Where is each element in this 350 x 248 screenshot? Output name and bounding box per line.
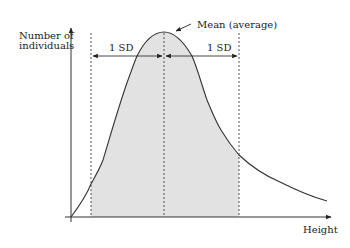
sd-diagram: Number of individuals 1 SD 1 SD Mean (av… [0,0,350,248]
x-axis-label: Height [303,224,338,235]
mean-label: Mean (average) [197,19,277,30]
sd-right-label: 1 SD [207,42,231,53]
mean-pointer-arrow [176,24,191,31]
sd-left-label: 1 SD [109,42,133,53]
y-axis-label-line2: individuals [19,40,74,51]
